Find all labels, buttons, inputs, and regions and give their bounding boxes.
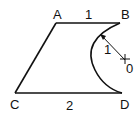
length-label-cd: 2	[66, 99, 73, 112]
radius-label: 1	[104, 43, 111, 56]
length-label-ab: 1	[85, 8, 92, 21]
point-label-b: B	[121, 8, 130, 21]
point-label-c: C	[10, 98, 19, 111]
point-label-o: 0	[126, 62, 133, 75]
arc-bd	[91, 23, 122, 93]
point-label-d: D	[120, 98, 129, 111]
point-label-a: A	[53, 8, 62, 21]
segment-ac	[15, 23, 56, 93]
